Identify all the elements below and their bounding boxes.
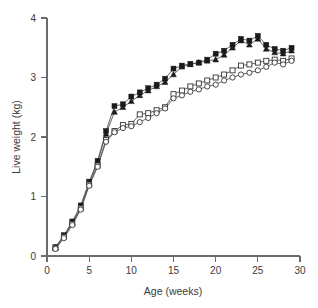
marker-open-square bbox=[188, 84, 193, 89]
marker-filled-square bbox=[171, 66, 176, 71]
axes bbox=[47, 18, 300, 256]
marker-open-circle bbox=[78, 207, 83, 212]
marker-open-circle bbox=[154, 111, 159, 116]
marker-filled-square bbox=[112, 104, 117, 109]
marker-open-circle bbox=[281, 62, 286, 67]
marker-open-circle bbox=[179, 93, 184, 98]
marker-open-circle bbox=[137, 120, 142, 125]
marker-open-circle bbox=[230, 75, 235, 80]
x-axis-title: Age (weeks) bbox=[144, 285, 202, 297]
y-tick-label: 4 bbox=[30, 13, 36, 24]
y-axis-title: Live weight (kg) bbox=[10, 100, 22, 174]
x-tick-label: 15 bbox=[168, 265, 180, 276]
y-tick-label: 3 bbox=[30, 72, 36, 83]
x-tick-label: 20 bbox=[210, 265, 222, 276]
x-tick-label: 30 bbox=[294, 265, 306, 276]
x-tick-label: 25 bbox=[252, 265, 264, 276]
marker-open-square bbox=[238, 63, 243, 68]
marker-open-circle bbox=[188, 89, 193, 94]
marker-open-square bbox=[137, 112, 142, 117]
marker-open-circle bbox=[103, 139, 108, 144]
marker-open-circle bbox=[213, 82, 218, 87]
marker-open-circle bbox=[146, 115, 151, 120]
marker-open-square bbox=[255, 60, 260, 65]
marker-open-circle bbox=[61, 236, 66, 241]
marker-open-circle bbox=[255, 68, 260, 73]
marker-open-circle bbox=[196, 87, 201, 92]
y-tick-label: 0 bbox=[30, 251, 36, 262]
marker-open-circle bbox=[247, 70, 252, 75]
marker-open-circle bbox=[162, 106, 167, 111]
marker-open-circle bbox=[120, 125, 125, 130]
marker-open-square bbox=[222, 72, 227, 77]
chart-screenshot: 01234 051015202530 Age (weeks) Live weig… bbox=[0, 0, 318, 308]
y-axis-ticks: 01234 bbox=[30, 13, 47, 262]
marker-open-circle bbox=[171, 96, 176, 101]
series-line-open-square bbox=[55, 58, 291, 248]
marker-open-square bbox=[264, 58, 269, 63]
marker-open-circle bbox=[53, 246, 58, 251]
marker-open-circle bbox=[70, 222, 75, 227]
marker-open-circle bbox=[238, 72, 243, 77]
marker-open-circle bbox=[205, 84, 210, 89]
series-line-open-circle bbox=[55, 61, 291, 249]
marker-open-circle bbox=[272, 60, 277, 65]
marker-filled-triangle bbox=[213, 57, 219, 62]
x-tick-label: 10 bbox=[126, 265, 138, 276]
marker-open-circle bbox=[112, 130, 117, 135]
marker-open-circle bbox=[95, 164, 100, 169]
y-tick-label: 2 bbox=[30, 132, 36, 143]
marker-open-circle bbox=[289, 58, 294, 63]
marker-open-circle bbox=[129, 124, 134, 129]
marker-filled-square bbox=[213, 51, 218, 56]
marker-open-square bbox=[213, 75, 218, 80]
marker-open-square bbox=[205, 78, 210, 83]
marker-open-circle bbox=[222, 78, 227, 83]
line-chart: 01234 051015202530 Age (weeks) Live weig… bbox=[0, 0, 318, 308]
marker-open-circle bbox=[87, 183, 92, 188]
x-axis-ticks: 051015202530 bbox=[44, 256, 306, 276]
x-tick-label: 5 bbox=[86, 265, 92, 276]
marker-open-square bbox=[196, 81, 201, 86]
series-markers-group bbox=[53, 33, 295, 251]
marker-open-square bbox=[230, 68, 235, 73]
marker-open-square bbox=[247, 62, 252, 67]
marker-open-circle bbox=[264, 64, 269, 69]
x-tick-label: 0 bbox=[44, 265, 50, 276]
y-tick-label: 1 bbox=[30, 191, 36, 202]
